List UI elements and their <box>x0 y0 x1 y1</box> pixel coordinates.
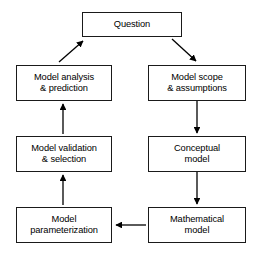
node-model-scope[interactable]: Model scope & assumptions <box>148 65 246 101</box>
node-model-parameterization[interactable]: Model parameterization <box>16 207 112 243</box>
node-model-scope-label: Model scope & assumptions <box>165 72 229 94</box>
edge-analysis-to-question <box>59 41 83 62</box>
node-model-validation[interactable]: Model validation & selection <box>16 136 112 172</box>
node-conceptual-model-label: Conceptual model <box>172 143 222 165</box>
node-mathematical-model[interactable]: Mathematical model <box>148 207 246 243</box>
node-question[interactable]: Question <box>82 12 182 37</box>
node-model-parameterization-label: Model parameterization <box>28 214 100 236</box>
node-mathematical-model-label: Mathematical model <box>168 214 226 236</box>
node-question-label: Question <box>112 19 152 30</box>
node-conceptual-model[interactable]: Conceptual model <box>148 136 246 172</box>
node-model-validation-label: Model validation & selection <box>29 143 99 165</box>
node-model-analysis[interactable]: Model analysis & prediction <box>16 65 112 101</box>
node-model-analysis-label: Model analysis & prediction <box>32 72 96 94</box>
edge-question-to-model-scope <box>172 39 196 61</box>
flowchart-canvas: Question Model scope & assumptions Conce… <box>0 0 259 257</box>
